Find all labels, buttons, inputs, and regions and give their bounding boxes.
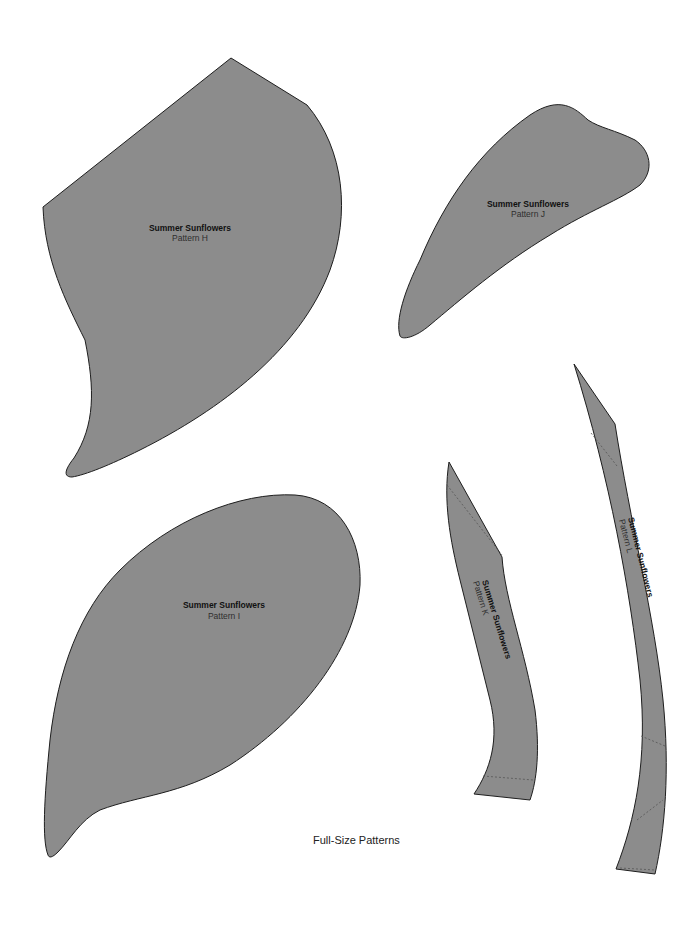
pattern-j-title: Summer Sunflowers bbox=[487, 199, 569, 209]
pattern-h-label: Pattern H bbox=[172, 233, 208, 243]
pattern-i-shape bbox=[44, 495, 360, 857]
pattern-k: Summer Sunflowers Pattern K bbox=[447, 462, 538, 800]
pattern-h: Summer Sunflowers Pattern H bbox=[43, 58, 342, 477]
page-caption: Full-Size Patterns bbox=[313, 834, 400, 846]
pattern-j: Summer Sunflowers Pattern J bbox=[399, 105, 649, 338]
pattern-sheet: Summer Sunflowers Pattern H Summer Sunfl… bbox=[0, 0, 699, 925]
pattern-l-shape bbox=[574, 364, 666, 874]
pattern-h-shape bbox=[43, 58, 342, 477]
pattern-i: Summer Sunflowers Pattern I bbox=[44, 495, 360, 857]
pattern-l: Summer Sunflowers Pattern L bbox=[574, 364, 666, 874]
pattern-h-title: Summer Sunflowers bbox=[149, 223, 231, 233]
pattern-j-shape bbox=[399, 105, 649, 338]
pattern-i-label: Pattern I bbox=[208, 611, 240, 621]
pattern-j-label: Pattern J bbox=[511, 209, 545, 219]
pattern-k-shape bbox=[447, 462, 538, 800]
pattern-i-title: Summer Sunflowers bbox=[183, 600, 265, 610]
